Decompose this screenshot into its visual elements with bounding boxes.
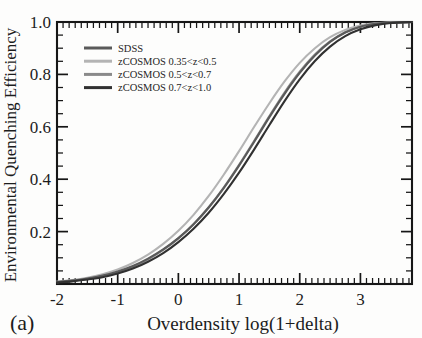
y-tick-label: 0.2 <box>30 223 51 242</box>
quenching-efficiency-chart: -2-10123 0.20.40.60.81.0 SDSSzCOSMOS 0.3… <box>0 0 422 338</box>
panel-label: (a) <box>10 310 34 335</box>
x-tick-label: -2 <box>50 290 64 309</box>
legend: SDSSzCOSMOS 0.35<z<0.5zCOSMOS 0.5<z<0.7z… <box>84 43 216 94</box>
y-tick-label: 0.6 <box>30 118 51 137</box>
y-tick-label: 0.4 <box>30 170 52 189</box>
y-tick-label: 1.0 <box>30 13 51 32</box>
x-tick-labels: -2-10123 <box>50 290 365 309</box>
figure-panel-a: -2-10123 0.20.40.60.81.0 SDSSzCOSMOS 0.3… <box>0 0 422 338</box>
y-axis-label: Environmental Quenching Efficiency <box>1 27 20 282</box>
x-tick-label: 0 <box>174 290 183 309</box>
legend-label: SDSS <box>118 43 143 54</box>
y-tick-labels: 0.20.40.60.81.0 <box>30 13 52 242</box>
legend-label: zCOSMOS 0.35<z<0.5 <box>118 56 216 67</box>
x-tick-label: -1 <box>111 290 125 309</box>
y-tick-label: 0.8 <box>30 65 51 84</box>
x-axis-label: Overdensity log(1+delta) <box>147 313 339 335</box>
x-tick-label: 3 <box>356 290 365 309</box>
legend-label: zCOSMOS 0.7<z<1.0 <box>118 82 211 93</box>
legend-label: zCOSMOS 0.5<z<0.7 <box>118 69 211 80</box>
x-tick-label: 1 <box>235 290 244 309</box>
x-tick-label: 2 <box>295 290 304 309</box>
